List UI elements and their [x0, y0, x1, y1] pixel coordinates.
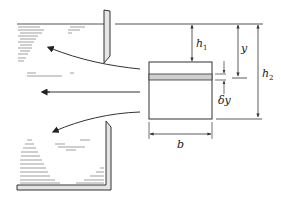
- water-hatching-lower: [20, 140, 104, 183]
- h1-dimension: h 1: [192, 25, 207, 61]
- vertical-gate-plate: [104, 10, 110, 63]
- water-hatching-middle: [27, 73, 74, 76]
- shaded-elemental-strip: [149, 74, 212, 80]
- y-label: y: [240, 42, 248, 55]
- b-label: b: [177, 138, 184, 151]
- orifice-flow-diagram: h 1 δy y h 2 b: [0, 0, 281, 203]
- b-dimension: b: [149, 122, 212, 151]
- delta-y-dimension: δy: [215, 61, 232, 107]
- water-hatching-upper: [18, 27, 85, 61]
- h1-subscript: 1: [203, 44, 207, 52]
- rectangular-orifice: [149, 62, 212, 119]
- streamline-upper: [50, 48, 140, 69]
- streamline-lower: [55, 112, 140, 131]
- delta-y-label: δy: [218, 94, 232, 107]
- h2-subscript: 2: [269, 74, 273, 82]
- y-dimension: y: [232, 25, 248, 78]
